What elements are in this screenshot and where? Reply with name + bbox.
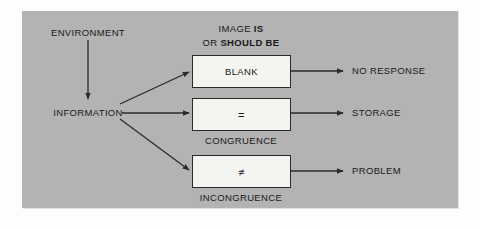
output-storage: STORAGE: [352, 108, 401, 118]
arrow-information-to-incongruence: [120, 119, 189, 170]
diagram-title-line-2: OR SHOULD BE: [202, 38, 279, 48]
output-problem: PROBLEM: [352, 166, 401, 176]
box-blank: BLANK: [192, 55, 291, 88]
diagram-title-line-1: IMAGE IS: [218, 24, 263, 34]
node-environment: ENVIRONMENT: [51, 28, 125, 38]
box-congruence-sublabel: CONGRUENCE: [205, 136, 277, 146]
node-information: INFORMATION: [53, 108, 123, 118]
output-no-response: NO RESPONSE: [352, 66, 426, 76]
diagram-title-line-1-emphasis: IS: [254, 23, 264, 34]
box-congruence: =: [192, 98, 291, 131]
arrow-information-to-blank: [120, 72, 189, 104]
diagram-title-line-2-plain: OR: [202, 37, 220, 48]
diagram-canvas: IMAGE IS OR SHOULD BE ENVIRONMENT INFORM…: [0, 0, 480, 230]
box-incongruence-sublabel: INCONGRUENCE: [200, 193, 282, 203]
diagram-title-line-2-emphasis: SHOULD BE: [220, 37, 279, 48]
diagram-title-line-1-plain: IMAGE: [218, 23, 253, 34]
box-incongruence: ≠: [192, 155, 291, 188]
